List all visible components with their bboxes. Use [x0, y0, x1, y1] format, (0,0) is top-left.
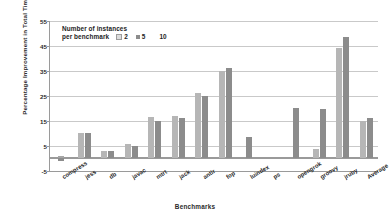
bar — [336, 48, 342, 158]
bar — [78, 133, 84, 158]
x-axis-label-cell: groovy — [308, 173, 332, 207]
legend-title-line2: per benchmark 2 5 10 — [62, 33, 175, 40]
y-axis-title: Percentage Improvement in Total Time — [21, 0, 28, 136]
bar — [148, 117, 154, 158]
bar-group — [167, 21, 191, 158]
bar — [125, 144, 131, 158]
bar-group-bars — [214, 21, 238, 158]
bar-group — [143, 21, 167, 158]
bar — [320, 109, 326, 158]
y-axis-tick-label: 35 — [40, 67, 47, 74]
x-axis-label-cell: ps — [261, 173, 285, 207]
bar — [293, 108, 299, 158]
bar-group — [96, 21, 120, 158]
bar — [132, 146, 138, 158]
x-axis-label-cell: javac — [120, 173, 144, 207]
x-axis-label-cell: jruby — [331, 173, 355, 207]
bar — [367, 118, 373, 158]
bar-group-bars — [331, 21, 355, 158]
x-axis-tick-label: ps — [272, 171, 281, 180]
y-axis-tick-label: 55 — [40, 18, 47, 25]
x-axis-title: Benchmarks — [0, 203, 390, 210]
bar-group — [284, 21, 308, 158]
bar-group-negative — [96, 158, 120, 171]
legend-label-10: 10 — [159, 33, 166, 40]
bar — [179, 118, 185, 158]
bar-group-bars — [308, 21, 332, 158]
bar-group-bars — [355, 21, 379, 158]
legend-label-5: 5 — [142, 33, 146, 40]
bar-groups — [49, 21, 378, 158]
bar-group-negative-bars — [49, 158, 73, 161]
bar — [202, 96, 208, 158]
bar-group — [308, 21, 332, 158]
x-axis-label-cell: mtrt — [143, 173, 167, 207]
x-axis-label-cell: compress — [49, 173, 73, 207]
bar-group — [237, 21, 261, 158]
bar-group-bars — [120, 21, 144, 158]
legend-swatch-icon-5 — [136, 35, 140, 39]
x-axis-label-cell: Average — [355, 173, 379, 207]
y-axis-tick-label: 45 — [40, 42, 47, 49]
bar-group-bars — [261, 21, 285, 158]
bar — [85, 133, 91, 158]
bar-group-bars — [167, 21, 191, 158]
legend-swatch-icon-2 — [116, 34, 122, 40]
legend-item-2: 2 — [116, 33, 128, 40]
bar-group-negative — [214, 158, 238, 171]
x-axis-label-cell: opengrok — [284, 173, 308, 207]
bar-group — [73, 21, 97, 158]
x-axis-tick-label: db — [108, 171, 117, 180]
x-axis-label-cell: luindex — [237, 173, 261, 207]
bar — [219, 71, 225, 158]
bar — [360, 121, 366, 158]
bar-negative — [58, 158, 64, 161]
bar — [343, 37, 349, 158]
bar — [155, 121, 161, 158]
bar-group-bars — [96, 21, 120, 158]
legend-title-line2-text: per benchmark — [62, 33, 109, 40]
bar-group — [261, 21, 285, 158]
bar-group — [49, 21, 73, 158]
bar-group-bars — [284, 21, 308, 158]
x-axis-label-cell: jess — [73, 173, 97, 207]
bar — [246, 137, 252, 158]
bar-group — [331, 21, 355, 158]
bar — [195, 93, 201, 158]
bar-group — [355, 21, 379, 158]
bar-group-bars — [237, 21, 261, 158]
legend-item-10: 10 — [153, 33, 166, 40]
x-axis-labels: compressjessdbjavacmtrtjackantlrfopluind… — [49, 173, 378, 207]
bar-group — [120, 21, 144, 158]
legend-title-line1: Number of instances — [62, 25, 175, 32]
x-axis-label-cell: antlr — [190, 173, 214, 207]
bar-group-bars — [190, 21, 214, 158]
legend-item-5: 5 — [136, 33, 146, 40]
bar — [108, 151, 114, 158]
bar-group-bars — [73, 21, 97, 158]
bar-group-bars — [143, 21, 167, 158]
bar — [313, 149, 319, 158]
bar-group — [214, 21, 238, 158]
y-axis-tick-label: 25 — [40, 92, 47, 99]
bar — [101, 151, 107, 158]
bar-group-bars — [49, 21, 73, 158]
bar-chart: Percentage Improvement in Total Time 554… — [0, 0, 390, 224]
x-axis-label-cell: jack — [167, 173, 191, 207]
legend-label-2: 2 — [124, 33, 128, 40]
legend: Number of instances per benchmark 2 5 10 — [62, 25, 175, 40]
bar — [226, 68, 232, 158]
y-axis-tick-label: 15 — [40, 117, 47, 124]
x-axis-label-cell: fop — [214, 173, 238, 207]
bar — [172, 116, 178, 158]
legend-swatch-icon-10 — [153, 35, 157, 39]
bar-group — [190, 21, 214, 158]
x-axis-label-cell: db — [96, 173, 120, 207]
